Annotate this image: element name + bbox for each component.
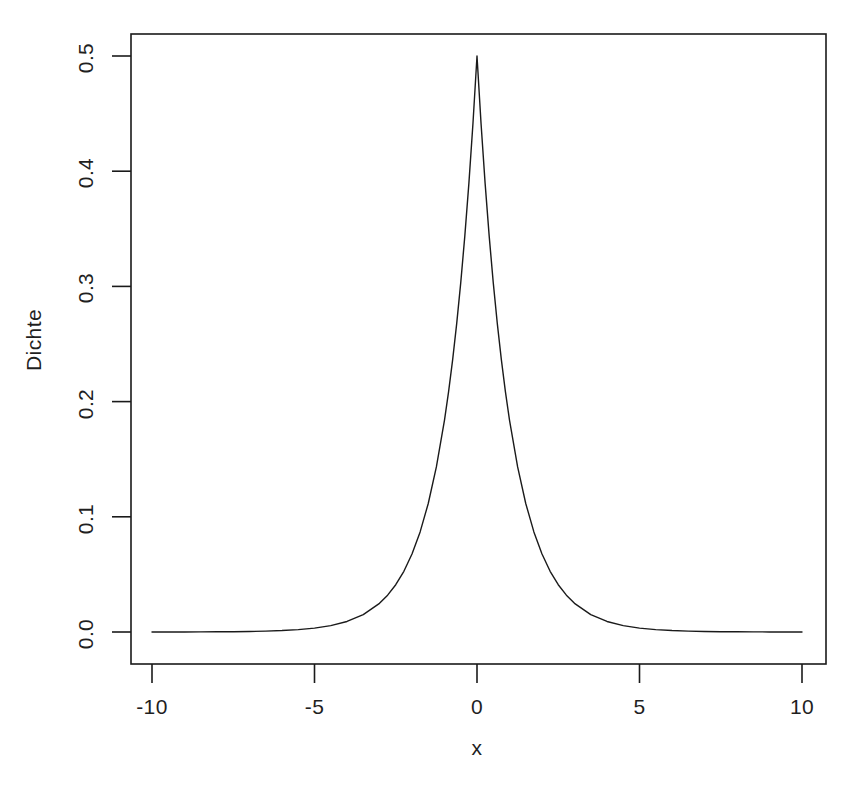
x-tick-label-4: 10: [762, 695, 842, 719]
x-axis-ticks: [152, 664, 802, 683]
y-tick-label-5: 0.5: [74, 30, 98, 86]
y-tick-label-0: 0.0: [74, 606, 98, 662]
y-tick-label-1: 0.1: [74, 491, 98, 547]
y-tick-label-4: 0.4: [74, 145, 98, 201]
x-axis-title: x: [437, 736, 517, 760]
plot-canvas: [0, 0, 851, 789]
chart-figure: 0.0 0.1 0.2 0.3 0.4 0.5 -10 -5 0 5 10 Di…: [0, 0, 851, 789]
x-tick-label-3: 5: [600, 695, 680, 719]
x-tick-label-0: -10: [112, 695, 192, 719]
y-tick-label-3: 0.3: [74, 260, 98, 316]
laplace-density-curve: [152, 56, 802, 632]
y-axis-ticks: [112, 56, 131, 632]
plot-box-frame: [131, 34, 826, 664]
x-tick-label-1: -5: [275, 695, 355, 719]
x-tick-label-2: 0: [437, 695, 517, 719]
y-tick-label-2: 0.2: [74, 376, 98, 432]
y-axis-title: Dichte: [22, 280, 46, 400]
